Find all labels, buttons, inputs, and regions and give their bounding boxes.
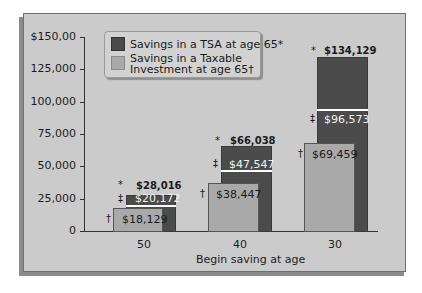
- dagger-mark: †: [200, 188, 205, 200]
- y-tick: [80, 134, 85, 135]
- y-tick: [80, 102, 85, 103]
- legend-swatch-taxable: [111, 56, 125, 70]
- y-tick-label: 125,000: [16, 63, 76, 75]
- value-label-mid-50: $20,172: [135, 193, 181, 205]
- x-axis-title: Begin saving at age: [196, 254, 305, 266]
- star-mark: *: [215, 135, 220, 147]
- marker-line-30: [317, 109, 368, 111]
- value-label-mid-30: $96,573: [324, 114, 370, 126]
- dagger-mark: †: [106, 213, 111, 225]
- value-label-tsa-50: $28,016: [136, 180, 182, 192]
- value-label-tsa-40: $66,038: [230, 135, 276, 147]
- y-tick-label: 25,000: [16, 193, 76, 205]
- legend: Savings in a TSA at age 65* Savings in a…: [104, 31, 261, 78]
- value-label-taxable-40: $38,447: [216, 189, 262, 201]
- y-tick: [80, 37, 85, 38]
- y-tick-label: 75,000: [16, 128, 76, 140]
- ddagger-mark: ‡: [310, 113, 315, 125]
- y-tick: [80, 199, 85, 200]
- ddagger-mark: ‡: [118, 193, 123, 205]
- y-tick: [80, 166, 85, 167]
- star-mark: *: [118, 179, 123, 191]
- value-label-mid-40: $47,547: [229, 159, 275, 171]
- value-label-taxable-50: $18,129: [122, 214, 168, 226]
- legend-label-tsa: Savings in a TSA at age 65*: [130, 39, 283, 50]
- x-tick-label: 50: [124, 239, 164, 251]
- y-tick-label: 0: [16, 225, 76, 237]
- x-tick-label: 30: [315, 239, 355, 251]
- star-mark: *: [311, 45, 316, 57]
- ddagger-mark: ‡: [213, 158, 218, 170]
- legend-swatch-tsa: [111, 37, 125, 51]
- dagger-mark: †: [298, 148, 303, 160]
- value-label-tsa-30: $134,129: [324, 45, 377, 57]
- y-tick-label: $150,00: [16, 31, 76, 43]
- value-label-taxable-30: $69,459: [312, 149, 358, 161]
- marker-line-50: [126, 205, 176, 207]
- y-tick-label: 50,000: [16, 160, 76, 172]
- y-tick: [80, 69, 85, 70]
- x-tick-label: 40: [220, 239, 260, 251]
- legend-label-taxable-2: Investment at age 65†: [130, 64, 254, 75]
- y-tick-label: 100,000: [16, 96, 76, 108]
